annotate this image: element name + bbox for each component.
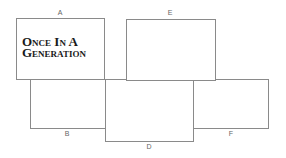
label-e: E (160, 9, 180, 16)
panel-f (193, 79, 269, 129)
label-d: D (139, 143, 159, 150)
label-a: A (50, 9, 70, 16)
title-line-2: Generation (22, 47, 102, 58)
label-b: B (57, 130, 77, 137)
panel-a-title: Once In A Generation (22, 36, 102, 58)
panel-b (30, 79, 106, 129)
label-f: F (221, 130, 241, 137)
panel-e (126, 19, 216, 81)
panel-d (105, 79, 194, 142)
